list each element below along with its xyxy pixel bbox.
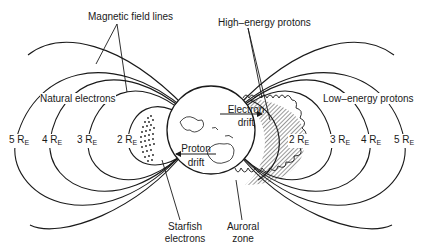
label-electron-drift: Electron	[226, 104, 266, 115]
label-natural-electrons: Natural electrons	[40, 93, 116, 104]
radius-label: 5 RE	[393, 134, 415, 148]
label-auroral: Auroral	[223, 221, 263, 232]
radius-label: 3 RE	[329, 134, 351, 148]
label-high-energy-protons: High–energy protons	[218, 17, 311, 28]
label-electron-drift-2: drift	[226, 117, 266, 128]
radius-label: 2 RE	[288, 134, 310, 148]
radiation-belt-diagram	[0, 0, 421, 248]
label-proton-drift: Proton	[176, 143, 216, 154]
radius-label: 4 RE	[360, 134, 382, 148]
label-magnetic-field-lines: Magnetic field lines	[88, 11, 173, 22]
label-low-energy-protons: Low–energy protons	[323, 93, 414, 104]
label-starfish-2: electrons	[160, 233, 210, 244]
label-starfish: Starfish	[160, 221, 210, 232]
starfish-electrons-dots	[140, 115, 155, 162]
radius-label: 4 RE	[41, 134, 63, 148]
radius-label: 2 RE	[116, 134, 138, 148]
radius-label: 5 RE	[8, 134, 30, 148]
label-auroral-2: zone	[223, 233, 263, 244]
label-proton-drift-2: drift	[176, 157, 216, 168]
radius-label: 3 RE	[76, 134, 98, 148]
